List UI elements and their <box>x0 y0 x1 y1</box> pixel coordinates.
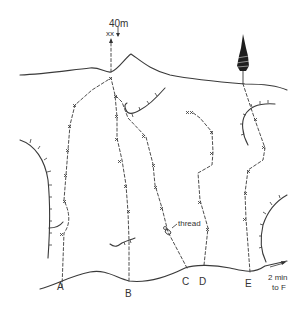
approach-target-label: to F <box>272 283 286 292</box>
approach-note: 2 min to F <box>268 261 288 292</box>
climbing-topo-diagram: xx 40m <box>0 0 305 309</box>
route-label-b: B <box>125 288 132 299</box>
route-d-line <box>192 112 213 265</box>
approach-time-label: 2 min <box>268 273 288 282</box>
lower-off-anchor: xx 40m <box>106 18 128 72</box>
thread-label: thread <box>178 219 201 228</box>
anchor-xx-label: xx <box>106 29 114 38</box>
upper-center-overhang <box>125 88 165 117</box>
route-b-line <box>111 78 129 281</box>
route-label-a: A <box>57 281 64 292</box>
route-label-c: C <box>182 276 189 287</box>
bolt-icons <box>60 77 265 236</box>
left-overhang <box>20 139 63 258</box>
route-a-line <box>62 78 111 287</box>
route-label-d: D <box>199 276 206 287</box>
route-length-label: 40m <box>109 18 128 29</box>
right-lower-overhang <box>259 195 287 262</box>
route-label-e: E <box>245 278 252 289</box>
small-overhang <box>110 238 135 246</box>
right-upper-overhang <box>240 100 275 145</box>
tree-icon <box>236 34 250 84</box>
